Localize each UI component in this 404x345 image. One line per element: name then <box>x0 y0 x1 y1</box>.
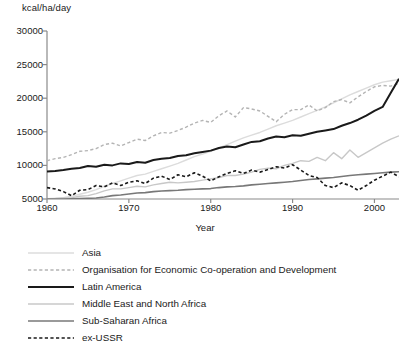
legend-item[interactable]: Latin America <box>28 278 404 295</box>
legend-item[interactable]: Sub-Saharan Africa <box>28 312 404 329</box>
legend-swatch <box>28 316 74 326</box>
legend-label: Latin America <box>82 281 141 292</box>
series-line <box>47 165 399 196</box>
chart-legend: AsiaOrganisation for Economic Co-operati… <box>28 244 404 345</box>
legend-swatch <box>28 248 74 258</box>
series-line <box>47 136 399 199</box>
legend-item[interactable]: Organisation for Economic Co-operation a… <box>28 261 404 278</box>
legend-label: Organisation for Economic Co-operation a… <box>82 264 336 275</box>
legend-label: Asia <box>82 247 101 258</box>
legend-label: Sub-Saharan Africa <box>82 315 167 326</box>
series-line <box>47 83 399 160</box>
legend-swatch <box>28 299 74 309</box>
legend-swatch <box>28 333 74 343</box>
legend-swatch <box>28 265 74 275</box>
x-axis-title-text: Year <box>195 222 214 233</box>
legend-label: Middle East and North Africa <box>82 298 206 309</box>
legend-item[interactable]: Middle East and North Africa <box>28 295 404 312</box>
legend-label: ex-USSR <box>82 332 123 343</box>
series-line <box>47 79 399 198</box>
plot-area <box>0 0 404 215</box>
legend-swatch <box>28 282 74 292</box>
legend-item[interactable]: ex-USSR <box>28 329 404 345</box>
legend-item[interactable]: Asia <box>28 244 404 261</box>
x-axis-title: Year <box>0 222 404 233</box>
series-line <box>47 79 399 172</box>
